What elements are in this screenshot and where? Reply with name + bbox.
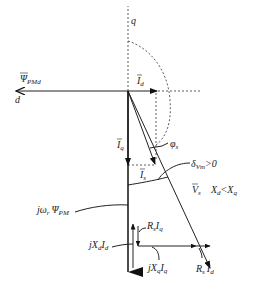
jw-psi-pm-label: jωrΨPM [35,204,70,217]
d-axis-label: d [15,94,21,105]
id-label: Id [136,75,144,88]
iq-label: Iq [116,139,124,152]
current-locus-arc [128,41,170,145]
delta-label: δVm>0 [191,158,217,171]
is-label: Is [139,169,146,182]
phi-s-label: φs [170,138,179,151]
vs-label: Vs [192,184,201,197]
jxd-id-leader [112,244,133,247]
rs-iq-label: RsIq [146,220,163,233]
delta-leader [171,163,190,168]
rs-iq-leader [139,228,146,232]
q-axis-label: q [131,15,136,26]
phi-s-leader [162,143,168,146]
xd-xq-condition: Xd<Xq [210,184,237,197]
jw-psi-pm-leader [75,205,128,212]
jw-psi-pm-arc [128,177,168,185]
psi-pmd-label: ΨPMd [20,73,41,86]
jxq-iq-label: jXqIq [146,262,168,275]
jxd-id-label: jXdId [87,239,109,252]
phasor-diagram: q d ΨPMd Id Iq Is φs δVm>0 Vs Xd<Xq jωrΨ… [0,0,253,288]
is-vector [128,91,155,164]
jxq-iq-leader [152,247,159,260]
rs-id-label: RsId [195,263,214,276]
